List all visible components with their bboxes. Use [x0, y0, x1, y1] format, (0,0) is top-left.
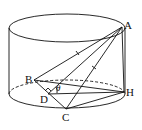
right-angle-mark	[45, 88, 51, 91]
label-theta: θ	[56, 84, 60, 93]
label-C: C	[62, 112, 69, 123]
diagram-canvas	[0, 0, 142, 130]
top-ellipse	[9, 14, 125, 42]
segment-AH	[122, 27, 124, 92]
label-D: D	[40, 94, 48, 105]
label-B: B	[25, 74, 32, 85]
label-A: A	[124, 20, 132, 31]
cylinder-diagram: A B H D C θ	[0, 0, 142, 130]
segment-BC	[34, 80, 66, 109]
label-H: H	[126, 87, 134, 98]
bottom-ellipse-front	[9, 94, 125, 108]
